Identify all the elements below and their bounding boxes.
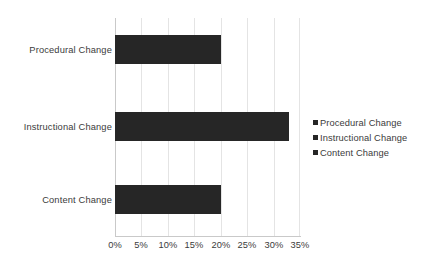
legend-item-procedural-change[interactable]: Procedural Change: [313, 115, 407, 130]
x-tick-35: 35%: [291, 240, 310, 251]
x-tick-30: 30%: [265, 240, 284, 251]
category-label-instructional-change: Instructional Change: [0, 122, 112, 132]
legend-label: Instructional Change: [320, 133, 407, 143]
bar-procedural-change: [115, 35, 221, 64]
legend-swatch-icon: [313, 120, 318, 125]
legend-swatch-icon: [313, 150, 318, 155]
x-tick-10: 10%: [159, 240, 178, 251]
legend-item-instructional-change[interactable]: Instructional Change: [313, 130, 407, 145]
legend-item-content-change[interactable]: Content Change: [313, 145, 407, 160]
category-label-content-change: Content Change: [0, 195, 112, 205]
legend-swatch-icon: [313, 135, 318, 140]
x-tick-15: 15%: [185, 240, 204, 251]
plot-area: [115, 18, 300, 236]
bar-chart: Procedural Change Instructional Change C…: [0, 0, 434, 267]
legend: Procedural Change Instructional Change C…: [313, 115, 407, 160]
legend-label: Procedural Change: [320, 118, 402, 128]
gridline-35: [299, 18, 300, 236]
x-tick-5: 5%: [134, 240, 148, 251]
legend-label: Content Change: [320, 148, 389, 158]
x-tick-25: 25%: [238, 240, 257, 251]
x-axis-line: [115, 236, 301, 237]
bar-content-change: [115, 185, 221, 214]
bar-instructional-change: [115, 112, 289, 141]
x-tick-20: 20%: [212, 240, 231, 251]
x-tick-0: 0%: [108, 240, 122, 251]
category-label-procedural-change: Procedural Change: [0, 45, 112, 55]
